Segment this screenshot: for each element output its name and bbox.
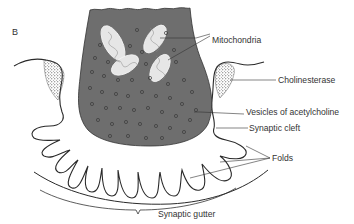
cholinesterase-left [44, 60, 64, 100]
synaptic-gutter-line [34, 170, 268, 204]
label-mitochondria: Mitochondria [212, 36, 261, 45]
cholinesterase-right [215, 63, 234, 98]
label-synaptic-cleft: Synaptic cleft [249, 124, 300, 133]
panel-label: B [12, 28, 18, 37]
label-vesicles: Vesicles of acetylcholine [246, 108, 339, 117]
label-folds: Folds [272, 154, 293, 163]
nerve-terminal [78, 8, 211, 146]
label-synaptic-gutter: Synaptic gutter [158, 210, 215, 219]
label-cholinesterase: Cholinesterase [278, 76, 335, 85]
